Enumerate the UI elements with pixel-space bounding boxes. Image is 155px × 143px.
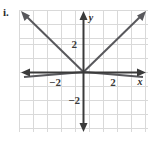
y-tick-label-neg2: −2 [68,94,80,106]
x-axis-left-arrowhead [21,69,30,77]
y-axis-label: y [88,12,94,23]
absolute-value-graph-figure: i. [0,0,155,143]
y-tick-label-pos2: 2 [72,38,78,50]
y-axis-top-arrowhead [80,11,88,20]
coordinate-plane-svg: −2 2 2 −2 x y [19,10,148,132]
x-tick-label-neg2: −2 [49,76,61,88]
coordinate-plane: −2 2 2 −2 x y [19,10,148,132]
x-tick-label-pos2: 2 [110,76,116,88]
x-axis-label: x [137,76,143,87]
y-axis-bottom-arrowhead [80,123,88,132]
figure-item-label: i. [3,6,9,18]
